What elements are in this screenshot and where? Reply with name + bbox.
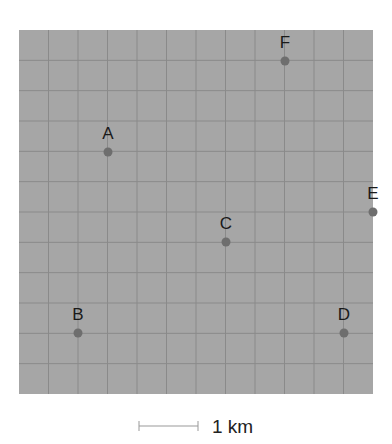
point-label: C bbox=[220, 214, 232, 233]
point-marker bbox=[369, 208, 378, 217]
point-b: B bbox=[72, 305, 83, 338]
point-marker bbox=[281, 57, 290, 66]
point-c: C bbox=[220, 214, 232, 247]
point-label: E bbox=[367, 184, 378, 203]
scale-label: 1 km bbox=[212, 416, 253, 438]
point-e: E bbox=[367, 184, 378, 217]
grid-map: ABCDEF bbox=[0, 0, 392, 444]
point-marker bbox=[104, 148, 113, 157]
point-label: D bbox=[338, 305, 350, 324]
point-label: A bbox=[102, 124, 114, 143]
scale-bar bbox=[139, 421, 198, 431]
point-d: D bbox=[338, 305, 350, 338]
point-label: F bbox=[280, 33, 290, 52]
point-marker bbox=[340, 329, 349, 338]
point-f: F bbox=[280, 33, 290, 66]
point-label: B bbox=[72, 305, 83, 324]
point-marker bbox=[74, 329, 83, 338]
point-marker bbox=[222, 238, 231, 247]
